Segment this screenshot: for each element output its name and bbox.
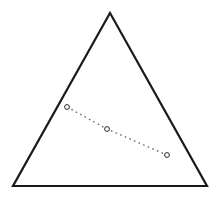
dotted-polyline	[67, 107, 167, 155]
diagram-svg	[0, 0, 218, 200]
marker-right-circle	[165, 153, 170, 158]
triangle-outline	[13, 13, 207, 186]
marker-left-circle	[65, 105, 70, 110]
figure-canvas	[0, 0, 218, 200]
marker-middle-circle	[105, 127, 110, 132]
